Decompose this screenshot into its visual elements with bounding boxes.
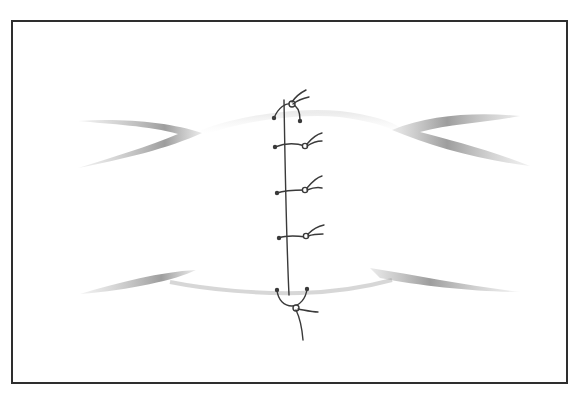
lower-tissue-edge <box>80 268 520 294</box>
suture-illustration <box>0 0 583 407</box>
upper-tissue-edge <box>78 113 530 168</box>
suture-thread <box>273 90 325 340</box>
